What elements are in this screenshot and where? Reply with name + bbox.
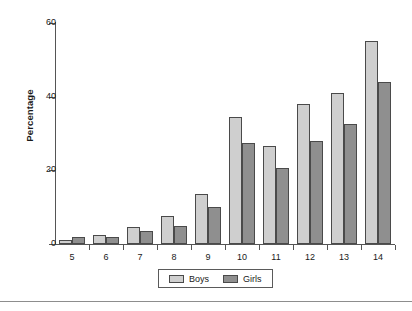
bar-boys-age-9 <box>195 194 208 244</box>
bar-girls-age-5 <box>72 237 85 244</box>
bar-boys-age-11 <box>263 146 276 244</box>
y-tick-label: 20 <box>28 164 56 174</box>
legend-label-boys: Boys <box>189 274 209 284</box>
y-tick-label: 60 <box>28 17 56 27</box>
x-tick-label: 12 <box>295 252 325 262</box>
bar-boys-age-5 <box>59 240 72 244</box>
y-tick-label-wrap: 0 <box>0 244 56 245</box>
bar-boys-age-7 <box>127 227 140 244</box>
chart-legend: Boys Girls <box>158 269 273 288</box>
legend-swatch-girls-icon <box>223 275 238 283</box>
chart-screenshot: Percentage 0204060 567891011121314 Boys … <box>0 0 412 311</box>
y-axis-title: Percentage <box>24 71 35 161</box>
y-tick-label: 40 <box>28 91 56 101</box>
y-tick-label-wrap: 40 <box>0 97 56 98</box>
bar-boys-age-8 <box>161 216 174 244</box>
bar-boys-age-6 <box>93 235 106 244</box>
x-tick-label: 11 <box>261 252 291 262</box>
x-tick-label: 6 <box>91 252 121 262</box>
bar-girls-age-7 <box>140 231 153 244</box>
x-tick-mark <box>259 245 260 250</box>
legend-swatch-boys-icon <box>169 275 184 283</box>
x-tick-label: 14 <box>363 252 393 262</box>
bar-girls-age-10 <box>242 143 255 244</box>
footer-divider <box>0 301 412 302</box>
x-tick-label: 9 <box>193 252 223 262</box>
x-tick-mark <box>225 245 226 250</box>
legend-label-girls: Girls <box>243 274 262 284</box>
bar-girls-age-9 <box>208 207 221 244</box>
bar-girls-age-6 <box>106 237 119 244</box>
bar-girls-age-8 <box>174 226 187 244</box>
x-tick-label: 5 <box>57 252 87 262</box>
y-tick-label-wrap: 60 <box>0 23 56 24</box>
x-tick-mark <box>293 245 294 250</box>
bar-girls-age-14 <box>378 82 391 244</box>
y-tick-label: 0 <box>28 238 56 248</box>
x-tick-mark <box>361 245 362 250</box>
x-tick-mark <box>157 245 158 250</box>
x-tick-mark <box>191 245 192 250</box>
bar-girls-age-13 <box>344 124 357 244</box>
bar-boys-age-12 <box>297 104 310 244</box>
x-tick-mark <box>395 245 396 250</box>
bar-boys-age-10 <box>229 117 242 244</box>
bar-chart: Percentage 0204060 567891011121314 Boys … <box>0 0 412 311</box>
x-tick-label: 8 <box>159 252 189 262</box>
y-tick-label-wrap: 20 <box>0 170 56 171</box>
x-tick-label: 7 <box>125 252 155 262</box>
x-tick-label: 13 <box>329 252 359 262</box>
y-axis-line <box>55 22 56 245</box>
bar-boys-age-14 <box>365 41 378 244</box>
bar-boys-age-13 <box>331 93 344 244</box>
bar-girls-age-11 <box>276 168 289 244</box>
legend-entry-girls: Girls <box>223 274 262 284</box>
legend-entry-boys: Boys <box>169 274 209 284</box>
x-tick-mark <box>123 245 124 250</box>
bar-girls-age-12 <box>310 141 323 244</box>
x-tick-label: 10 <box>227 252 257 262</box>
x-tick-mark <box>89 245 90 250</box>
x-tick-mark <box>327 245 328 250</box>
